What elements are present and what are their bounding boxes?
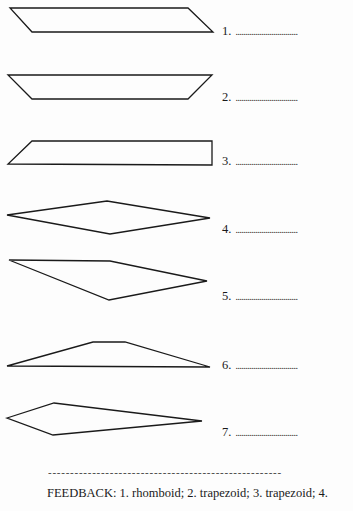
answer-blank[interactable]: ...............................: [235, 92, 297, 103]
feedback-text: FEEDBACK: 1. rhomboid; 2. trapezoid; 3. …: [47, 486, 328, 501]
answer-blank[interactable]: ...............................: [235, 26, 297, 37]
answer-blank[interactable]: ...............................: [235, 360, 297, 371]
shape-4-rhombus: [7, 201, 210, 234]
shape-2-trapezoid: [8, 75, 212, 99]
answer-line-4[interactable]: 4................................: [222, 222, 297, 237]
answer-line-6[interactable]: 6................................: [222, 358, 297, 373]
answer-blank[interactable]: ...............................: [235, 291, 297, 302]
shape-1-rhomboid: [10, 8, 213, 32]
answer-line-7[interactable]: 7................................: [222, 425, 297, 440]
item-number: 2.: [222, 90, 231, 104]
item-number: 5.: [222, 289, 231, 303]
item-number: 7.: [222, 425, 231, 439]
shapes-canvas: [0, 0, 353, 511]
item-number: 4.: [222, 222, 231, 236]
answer-line-3[interactable]: 3................................: [222, 154, 297, 169]
shape-5-quadrilateral: [9, 260, 207, 300]
item-number: 3.: [222, 154, 231, 168]
answer-line-1[interactable]: 1................................: [222, 24, 297, 39]
answer-line-5[interactable]: 5................................: [222, 289, 297, 304]
item-number: 6.: [222, 358, 231, 372]
answer-line-2[interactable]: 2................................: [222, 90, 297, 105]
dashed-separator: - - - - - - - - - - - - - - - - - - - - …: [48, 466, 344, 478]
shape-3-trapezoid: [8, 141, 212, 165]
answer-blank[interactable]: ...............................: [235, 427, 297, 438]
item-number: 1.: [222, 24, 231, 38]
shape-6-trapezoid: [7, 342, 210, 367]
answer-blank[interactable]: ...............................: [235, 156, 297, 167]
shape-7-kite: [7, 403, 202, 435]
answer-blank[interactable]: ...............................: [235, 224, 297, 235]
